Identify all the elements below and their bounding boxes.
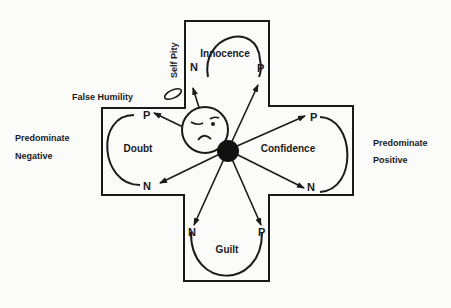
right-side-label-2: Positive [373,155,408,165]
arrow-to-confidence-n [228,150,304,188]
confidence-n: N [307,181,315,193]
self-pity-label: Self Pity [169,42,179,78]
innocence-p: P [257,62,264,74]
confidence-loop [320,117,347,192]
left-side-label-2: Negative [15,151,53,161]
label-confidence: Confidence [261,143,316,154]
right-side-label-1: Predominate [373,138,428,148]
confidence-p: P [310,111,317,123]
left-side-label-1: Predominate [15,133,70,143]
center-dot [217,140,239,162]
doubt-n: N [143,180,151,192]
arrow-to-doubt-p [154,113,183,127]
guilt-p: P [258,226,265,238]
label-innocence: Innocence [200,48,250,59]
cross-diagram: Innocence Doubt Confidence Guilt N P P N… [0,0,451,308]
halo-icon [163,87,183,102]
arrow-to-innocence-p [228,85,258,150]
innocence-n: N [190,61,198,73]
guilt-n: N [188,226,196,238]
doubt-p: P [143,109,150,121]
arrow-to-guilt-p [228,150,261,225]
false-humility-label: False Humility [72,92,133,102]
label-guilt: Guilt [216,244,239,255]
label-doubt: Doubt [124,143,154,154]
arrow-to-guilt-n [194,150,228,225]
